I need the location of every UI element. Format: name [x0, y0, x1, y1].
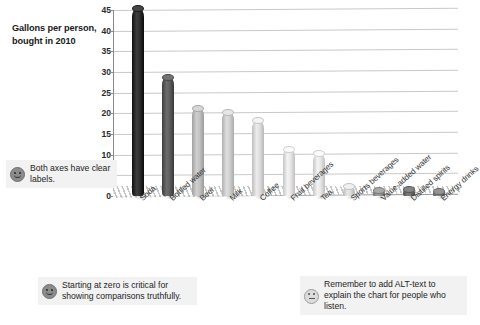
annotation-alt-text-text: Remember to add ALT-text to explain the … — [324, 279, 462, 312]
x-axis-category-labels: SodaBottled waterBeerMilkCoffeeFruit bev… — [113, 196, 458, 266]
bar-series — [113, 10, 458, 196]
bar-cap — [313, 150, 325, 157]
annotation-start-at-zero: Starting at zero is critical for showing… — [38, 277, 197, 305]
bar — [132, 8, 144, 196]
bar — [283, 148, 295, 196]
bar-cap — [343, 183, 355, 190]
bar — [162, 76, 174, 196]
bar-cap — [283, 146, 295, 153]
neutral-face-icon — [304, 289, 319, 304]
bar — [252, 120, 264, 196]
bar-cap — [222, 109, 234, 116]
bar-cap — [252, 117, 264, 124]
smiley-face-icon — [42, 284, 57, 299]
annotation-axes-labels-text: Both axes have clear labels. — [30, 163, 112, 185]
bar — [222, 111, 234, 196]
smiley-face-icon — [10, 167, 25, 182]
annotation-alt-text: Remember to add ALT-text to explain the … — [300, 276, 467, 315]
annotation-axes-labels: Both axes have clear labels. — [6, 160, 117, 188]
bar-cap — [132, 5, 144, 12]
bar-cap — [162, 74, 174, 81]
annotation-start-at-zero-text: Starting at zero is critical for showing… — [62, 280, 192, 302]
bar-cap — [192, 105, 204, 112]
